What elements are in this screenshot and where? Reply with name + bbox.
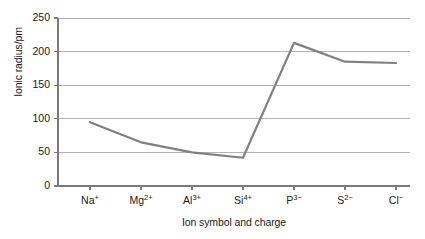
chart-figure: Ionic radius/pm Ion symbol and charge 05…: [0, 0, 425, 239]
axis-lines: [58, 18, 410, 186]
tick-marks: [54, 18, 396, 190]
plot-area: [0, 0, 425, 239]
gridlines: [58, 18, 410, 152]
data-series-line: [90, 43, 396, 158]
